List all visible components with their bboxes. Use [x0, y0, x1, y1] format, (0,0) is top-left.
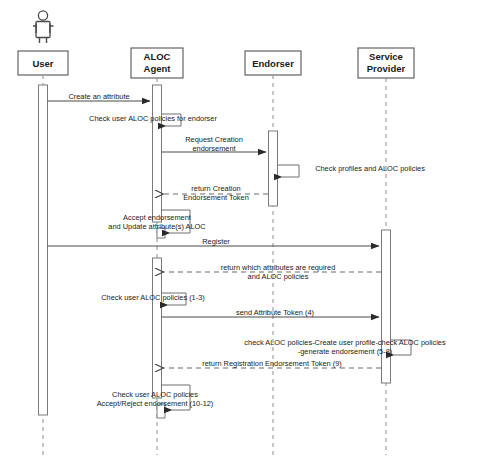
message-check-aloc-create-profile-generate-endorsement[interactable]: check ALOC policies-Create user profile-…	[244, 338, 446, 356]
message-return-creation-endorsement-token[interactable]: return Creation Endorsement Token	[163, 184, 268, 202]
participant-label-service-provider-line1: Service	[369, 51, 403, 62]
participant-header-endorser[interactable]: Endorser	[245, 51, 301, 75]
message-label-return-creation-endorsement-token-line1: return Creation	[191, 184, 240, 193]
message-check-profiles-and-aloc-policies[interactable]: Check profiles and ALOC policies	[278, 164, 426, 177]
message-send-attribute-token[interactable]: send Attribute Token (4)	[162, 308, 380, 317]
participant-label-aloc-agent-line2: Agent	[144, 63, 172, 74]
actor-figure-user	[33, 11, 54, 43]
participant-label-service-provider-line2: Provider	[367, 63, 406, 74]
message-label-return-which-attributes-line1: return which attributes are required	[221, 263, 336, 272]
message-label-request-creation-endorsement-line2: endorsement	[192, 144, 235, 153]
message-label-accept-endorsement-line2: and Update attribute(s) ALOC	[108, 222, 206, 231]
message-label-check-user-aloc-policies-for-endorser: Check user ALOC policies for endorser	[89, 114, 217, 123]
message-label-create-an-attribute: Create an attribute	[68, 92, 129, 101]
activation-bar-aloc-agent-2	[153, 258, 162, 398]
message-label-accept-reject-line2: Accept/Reject endorsement (10-12)	[97, 399, 214, 408]
message-accept-endorsement-update-attributes[interactable]: Accept endorsement and Update attribute(…	[108, 210, 206, 233]
participant-label-aloc-agent-line1: ALOC	[144, 51, 171, 62]
message-label-request-creation-endorsement-line1: Request Creation	[185, 135, 243, 144]
message-label-accept-reject-line1: Check user ALOC policies	[112, 390, 198, 399]
activation-bar-endorser	[269, 131, 278, 206]
message-label-accept-endorsement-line1: Accept endorsement	[123, 213, 191, 222]
participant-header-service-provider[interactable]: Service Provider	[358, 48, 414, 78]
message-label-check-profiles-and-aloc-policies: Check profiles and ALOC policies	[315, 164, 425, 173]
message-request-creation-endorsement[interactable]: Request Creation endorsement	[162, 135, 267, 153]
activation-bar-aloc-agent-1	[153, 85, 162, 222]
message-label-return-creation-endorsement-token-line2: Endorsement Token	[183, 193, 249, 202]
participant-label-endorser: Endorser	[252, 58, 294, 69]
message-label-send-attribute-token: send Attribute Token (4)	[236, 308, 314, 317]
message-label-generate-endorsement-line1: check ALOC policies-Create user profile-…	[244, 338, 446, 347]
participant-header-aloc-agent[interactable]: ALOC Agent	[131, 48, 183, 78]
message-label-check-user-aloc-policies-1-3: Check user ALOC policies (1-3)	[101, 293, 205, 302]
activation-bar-service-provider	[382, 230, 391, 383]
sequence-diagram-canvas: User ALOC Agent Endorser Service Provide…	[0, 0, 494, 463]
message-label-register: Register	[202, 237, 230, 246]
message-return-which-attributes-required[interactable]: return which attributes are required and…	[163, 263, 381, 281]
participant-label-user: User	[32, 58, 53, 69]
message-label-generate-endorsement-line2: -generate endorsement (5-8)	[298, 347, 393, 356]
message-register[interactable]: Register	[48, 237, 380, 246]
message-return-registration-endorsement-token[interactable]: return Registration Endorsement Token (9…	[163, 359, 381, 368]
activation-bar-user	[39, 85, 48, 415]
message-create-an-attribute[interactable]: Create an attribute	[48, 92, 151, 101]
participant-header-user[interactable]: User	[18, 51, 68, 75]
message-label-return-which-attributes-line2: and ALOC policies	[248, 272, 309, 281]
message-label-return-registration-endorsement-token: return Registration Endorsement Token (9…	[202, 359, 342, 368]
sequence-diagram-svg: User ALOC Agent Endorser Service Provide…	[0, 0, 494, 463]
